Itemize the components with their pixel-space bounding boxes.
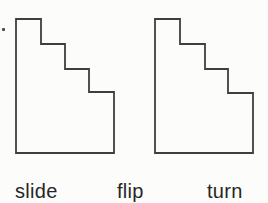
worksheet-figure-page: slide flip turn — [0, 0, 268, 203]
step-shape-slid-copy — [155, 19, 253, 153]
option-label-slide: slide — [15, 181, 58, 201]
option-label-flip: flip — [117, 181, 144, 201]
transformation-figure — [0, 0, 268, 203]
option-label-turn: turn — [207, 181, 243, 201]
step-shape-original — [16, 19, 114, 153]
